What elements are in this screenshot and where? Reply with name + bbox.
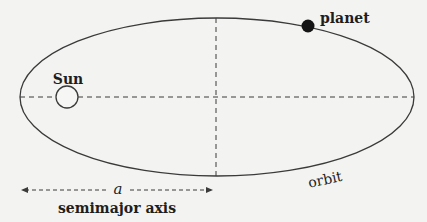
planet-icon xyxy=(302,20,315,33)
sun-label: Sun xyxy=(53,71,83,87)
orbit-label: orbit xyxy=(307,168,344,191)
orbit-diagram-svg: Sun planet orbit a semimajor axis xyxy=(0,0,427,222)
semimajor-label: semimajor axis xyxy=(58,200,176,216)
sun-icon xyxy=(56,86,78,108)
planet-label: planet xyxy=(320,10,370,26)
semimajor-symbol: a xyxy=(114,180,123,198)
orbit-diagram: Sun planet orbit a semimajor axis xyxy=(0,0,427,222)
